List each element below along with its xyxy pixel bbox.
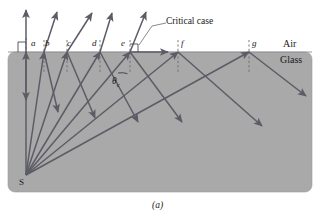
right-angle-markers: [18, 42, 138, 52]
point-label-f: f: [181, 38, 184, 48]
glass-region: [8, 52, 312, 192]
critical-angle-label: θc: [112, 76, 120, 88]
right-angle-marker-a: [18, 42, 26, 52]
figure-caption: (a): [152, 200, 163, 210]
point-label-a: a: [31, 38, 36, 48]
refracted-ray-d: [100, 13, 112, 52]
figure-canvas: [0, 0, 320, 216]
point-label-b: b: [45, 38, 50, 48]
medium-label-glass: Glass: [280, 54, 302, 65]
point-label-d: d: [92, 38, 97, 48]
theta-subscript: c: [117, 81, 120, 88]
critical-case-annotation: Critical case: [166, 16, 213, 26]
critical-case-leader: [139, 23, 166, 45]
point-label-e: e: [121, 38, 125, 48]
source-label: S: [19, 177, 24, 187]
medium-label-air: Air: [283, 38, 296, 49]
point-label-g: g: [252, 38, 257, 48]
point-label-c: c: [67, 38, 71, 48]
total-internal-reflection-figure: a b c d e f g Critical case θc Air Glass…: [0, 0, 320, 216]
